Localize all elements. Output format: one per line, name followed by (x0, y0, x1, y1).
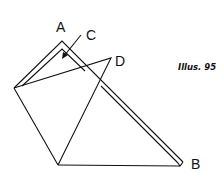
c-pointer-arrowhead (62, 52, 68, 59)
figure-caption: Illus. 95 (178, 62, 216, 72)
label-d: D (115, 54, 125, 68)
strip-inner-lower (101, 86, 178, 163)
strip-end-b (178, 162, 183, 166)
bottom-edge (58, 165, 180, 166)
left-edge (14, 88, 58, 165)
label-b: B (191, 157, 200, 171)
label-a: A (56, 20, 65, 34)
label-c: C (86, 28, 96, 42)
strip-outer-edge (14, 41, 183, 162)
